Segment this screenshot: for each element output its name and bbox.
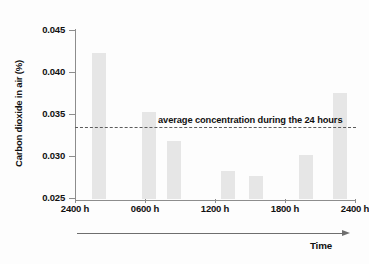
x-tick-label-3: 1800 h [271, 203, 299, 214]
y-tick-4: 0.045 [69, 30, 75, 31]
y-tick-2: 0.035 [69, 114, 75, 115]
x-tick-label-2: 1200 h [201, 203, 229, 214]
bar-3 [221, 171, 235, 199]
x-tick-label-1: 0600 h [131, 203, 159, 214]
y-tick-label-1: 0.030 [42, 150, 65, 161]
bar-6 [333, 93, 347, 199]
average-concentration-label: average concentration during the 24 hour… [158, 115, 342, 125]
x-axis-title: Time [310, 240, 332, 251]
bar-5 [299, 155, 313, 199]
x-tick-label-4: 2400 h [341, 203, 369, 214]
time-arrow-head-icon [342, 230, 350, 236]
plot-area: 0.025 0.030 0.035 0.040 0.045 average co… [75, 31, 355, 199]
y-axis-title: Carbon dioxide in air (%) [13, 34, 24, 194]
bar-0 [92, 53, 106, 199]
time-axis-arrow [77, 230, 350, 237]
bar-1 [142, 112, 156, 199]
time-arrow-shaft [77, 233, 343, 234]
co2-concentration-bar-chart: Carbon dioxide in air (%) 0.025 0.030 0.… [0, 0, 369, 264]
average-concentration-line [75, 127, 356, 128]
y-tick-label-3: 0.040 [42, 66, 65, 77]
y-tick-label-4: 0.045 [42, 24, 65, 35]
x-tick-label-0: 2400 h [61, 203, 89, 214]
bar-2 [167, 141, 181, 199]
y-tick-3: 0.040 [69, 72, 75, 73]
bar-4 [249, 176, 263, 199]
y-tick-label-2: 0.035 [42, 108, 65, 119]
y-tick-1: 0.030 [69, 156, 75, 157]
y-tick-label-0: 0.025 [42, 192, 65, 203]
